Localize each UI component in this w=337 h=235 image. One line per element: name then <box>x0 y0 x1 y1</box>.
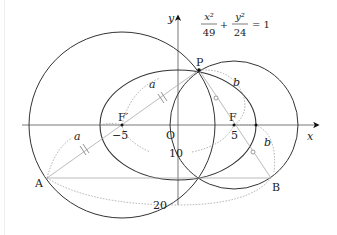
dotted-arc-ten <box>192 125 234 152</box>
origin-label: O <box>166 129 175 142</box>
eq-den2: 24 <box>234 27 247 38</box>
point-vertex-right <box>255 124 258 127</box>
label-p: P <box>196 56 204 69</box>
midpoint-mark-upper <box>214 96 218 100</box>
tick-pos5: 5 <box>231 129 238 142</box>
label-f: F <box>229 111 237 124</box>
segment-label-b-upper: b <box>233 76 240 89</box>
y-axis-label: y <box>167 12 175 25</box>
eq-num2: y² <box>234 11 245 22</box>
tick-20: 20 <box>153 199 167 212</box>
label-f-prime: F′ <box>118 111 129 124</box>
tick-neg5: −5 <box>112 129 128 142</box>
ellipse-diagram: x² 49 + y² 24 = 1 y x O P A B F F′ −5 5 … <box>0 0 337 235</box>
midpoint-mark-lower <box>251 150 255 154</box>
label-a: A <box>34 177 44 190</box>
eq-num1: x² <box>204 11 214 22</box>
dotted-arc-a-lower <box>47 138 72 178</box>
x-axis-label: x <box>307 130 314 143</box>
eq-plus: + <box>220 19 228 30</box>
eq-den1: 49 <box>203 27 216 38</box>
label-b: B <box>272 181 280 194</box>
segment-label-a-lower: a <box>74 130 81 143</box>
tick-10: 10 <box>169 147 183 160</box>
segment-label-a-upper: a <box>149 78 156 91</box>
segment-label-b-lower: b <box>264 136 271 149</box>
eq-rhs: = 1 <box>252 19 270 30</box>
